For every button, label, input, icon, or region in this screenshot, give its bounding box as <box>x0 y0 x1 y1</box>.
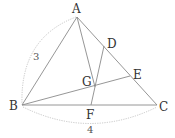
label-d: D <box>107 37 117 51</box>
side-ab <box>22 17 77 105</box>
label-f: F <box>86 108 94 122</box>
label-c: C <box>159 100 168 114</box>
label-e: E <box>133 68 142 82</box>
arc-ab-dimension <box>22 17 76 104</box>
label-b: B <box>9 99 18 113</box>
side-ac <box>77 17 157 105</box>
label-a: A <box>71 2 81 16</box>
segment-be <box>22 76 130 105</box>
segment-df <box>91 46 104 105</box>
triangle-diagram: A B C D E G F 3 4 <box>0 0 175 138</box>
measurement-bc: 4 <box>87 124 93 135</box>
label-g: G <box>82 75 92 89</box>
measurement-ab: 3 <box>33 51 39 62</box>
